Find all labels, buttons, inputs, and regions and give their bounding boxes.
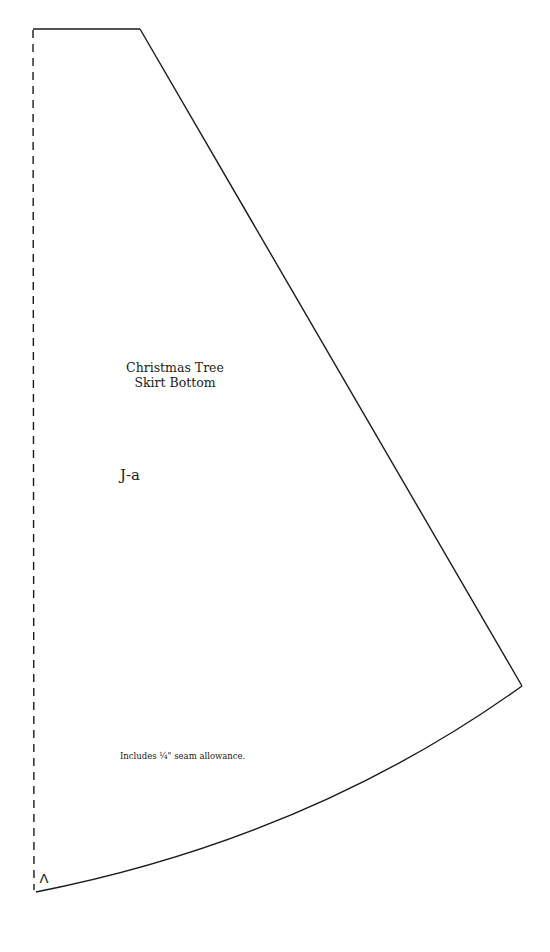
side-edge: [140, 29, 522, 686]
seam-allowance-note: Includes ¼" seam allowance.: [120, 751, 245, 761]
pattern-title: Christmas Tree Skirt Bottom: [115, 360, 235, 390]
pattern-title-line1: Christmas Tree: [115, 360, 235, 375]
piece-id-label: J-a: [120, 466, 140, 484]
fold-line: [33, 30, 34, 890]
pattern-title-line2: Skirt Bottom: [115, 375, 235, 390]
pattern-outline: [0, 0, 550, 952]
corner-notch-icon: Λ: [40, 872, 49, 886]
hem-curve: [36, 686, 522, 892]
pattern-page: Christmas Tree Skirt Bottom J-a Includes…: [0, 0, 550, 952]
